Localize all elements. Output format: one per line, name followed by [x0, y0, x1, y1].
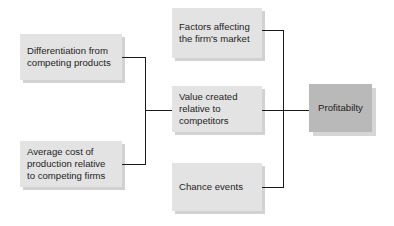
connector-value-created-out	[262, 110, 284, 111]
node-average-cost: Average cost of production relative to c…	[20, 141, 122, 187]
connector-average-cost-out	[122, 164, 146, 165]
connector-differentiation-out	[122, 57, 146, 58]
node-market-factors: Factors affecting the firm's market	[172, 8, 262, 58]
profitability-diagram: Differentiation from competing products …	[0, 0, 394, 226]
node-average-cost-label: Average cost of production relative to c…	[27, 146, 116, 182]
node-differentiation: Differentiation from competing products	[20, 34, 122, 80]
node-profitability: Profitabilty	[309, 84, 372, 132]
node-value-created: Value created relative to competitors	[172, 86, 262, 132]
node-value-created-label: Value created relative to competitors	[179, 91, 252, 127]
node-differentiation-label: Differentiation from competing products	[27, 45, 118, 69]
connector-to-profitability	[283, 110, 309, 111]
connector-market-factors-out	[262, 30, 284, 31]
connector-chance-events-out	[262, 187, 284, 188]
node-chance-events: Chance events	[172, 163, 262, 211]
node-chance-events-label: Chance events	[179, 181, 243, 193]
node-market-factors-label: Factors affecting the firm's market	[179, 21, 258, 45]
connector-right-bracket	[283, 30, 284, 188]
node-profitability-label: Profitabilty	[318, 102, 363, 114]
connector-to-value-created	[145, 110, 172, 111]
